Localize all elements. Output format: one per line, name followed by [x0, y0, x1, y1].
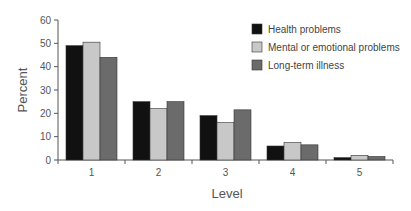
legend-label: Health problems [268, 24, 341, 35]
x-tick-label: 4 [290, 167, 296, 178]
bar [267, 146, 284, 160]
legend-swatch [252, 42, 262, 52]
legend-label: Mental or emotional problems [268, 42, 400, 53]
bar [234, 110, 251, 160]
legend: Health problemsMental or emotional probl… [252, 24, 400, 71]
bar [334, 158, 351, 160]
y-tick-label: 60 [40, 15, 52, 26]
x-tick-label: 3 [223, 167, 229, 178]
bar [167, 102, 184, 160]
bar [368, 157, 385, 161]
bar [100, 57, 117, 160]
x-tick-label: 2 [156, 167, 162, 178]
y-tick-label: 40 [40, 61, 52, 72]
y-axis-title: Percent [15, 67, 30, 112]
bar-chart: 0102030405060 12345 Health problemsMenta… [0, 0, 411, 211]
y-tick-label: 20 [40, 108, 52, 119]
x-tick-label: 5 [357, 167, 363, 178]
y-tick-label: 10 [40, 131, 52, 142]
legend-label: Long-term illness [268, 60, 344, 71]
bar [301, 145, 318, 160]
y-tick-label: 50 [40, 38, 52, 49]
bar [200, 116, 217, 160]
x-axis-title: Level [211, 186, 242, 201]
x-tick-label: 1 [89, 167, 95, 178]
legend-swatch [252, 60, 262, 70]
bar [66, 46, 83, 160]
y-tick-label: 30 [40, 85, 52, 96]
x-axis: 12345 [58, 160, 393, 178]
bar [217, 123, 234, 160]
legend-swatch [252, 24, 262, 34]
y-axis: 0102030405060 [40, 15, 58, 166]
bar [83, 42, 100, 160]
bar [284, 143, 301, 161]
bar [133, 102, 150, 160]
bar [150, 109, 167, 160]
y-tick-label: 0 [45, 155, 51, 166]
bar [351, 155, 368, 160]
